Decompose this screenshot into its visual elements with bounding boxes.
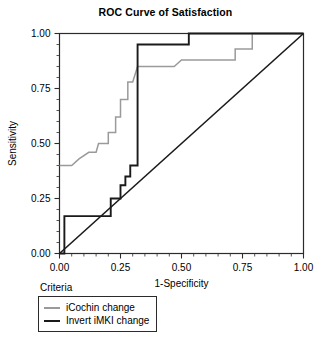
y-axis-tick-label: 1.00 bbox=[31, 28, 51, 39]
x-axis-tick-label: 1.00 bbox=[294, 262, 314, 273]
y-axis-title: Sensitivity bbox=[7, 121, 18, 166]
legend-line-icon-gray bbox=[44, 307, 60, 309]
x-axis-tick-label: 0.00 bbox=[50, 262, 70, 273]
series-reference-diagonal bbox=[60, 34, 304, 254]
series-icochin-change bbox=[60, 34, 304, 166]
legend-line-icon-black bbox=[44, 320, 60, 322]
legend: Criteria iCochin change Invert iMKI chan… bbox=[38, 282, 198, 332]
x-axis-tick-label: 0.50 bbox=[172, 262, 192, 273]
legend-item-label: Invert iMKI change bbox=[66, 314, 149, 327]
x-axis-tick-label: 0.25 bbox=[111, 262, 131, 273]
y-axis-tick-label: 0.75 bbox=[31, 83, 51, 94]
legend-box: iCochin change Invert iMKI change bbox=[38, 296, 157, 332]
legend-title: Criteria bbox=[38, 282, 198, 293]
x-axis-tick-label: 0.75 bbox=[233, 262, 253, 273]
y-axis-tick-label: 0.00 bbox=[31, 248, 51, 259]
legend-item-icochin: iCochin change bbox=[44, 301, 149, 314]
y-axis-tick-label: 0.50 bbox=[31, 138, 51, 149]
roc-chart-figure: ROC Curve of Satisfaction 0.000.250.500.… bbox=[0, 0, 331, 351]
y-axis-tick-label: 0.25 bbox=[31, 193, 51, 204]
legend-item-label: iCochin change bbox=[66, 301, 135, 314]
legend-item-imki: Invert iMKI change bbox=[44, 314, 149, 327]
